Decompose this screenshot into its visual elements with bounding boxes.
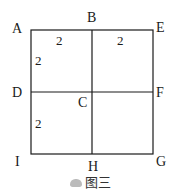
figure-caption: 图三: [70, 176, 111, 190]
point-label-H: H: [88, 160, 98, 174]
length-label-DI: 2: [35, 117, 42, 130]
length-label-AD: 2: [35, 54, 42, 67]
point-label-F: F: [156, 86, 164, 100]
point-label-A: A: [12, 22, 22, 36]
geometry-figure: A B E D C F I H G 2 2 2 2 图三: [0, 0, 180, 193]
point-label-G: G: [156, 155, 166, 169]
point-label-D: D: [12, 86, 22, 100]
point-label-I: I: [15, 155, 20, 169]
length-label-AB: 2: [56, 34, 63, 47]
point-label-C: C: [78, 96, 87, 110]
length-label-BE: 2: [117, 34, 124, 47]
caption-text: 图三: [85, 176, 111, 190]
point-label-E: E: [156, 21, 165, 35]
decorative-logo-icon: [70, 179, 82, 187]
point-label-B: B: [87, 11, 96, 25]
